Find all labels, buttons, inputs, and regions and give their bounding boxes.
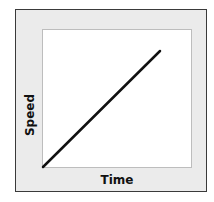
y-axis-label: Speed — [23, 94, 37, 136]
x-axis-label: Time — [101, 173, 134, 187]
